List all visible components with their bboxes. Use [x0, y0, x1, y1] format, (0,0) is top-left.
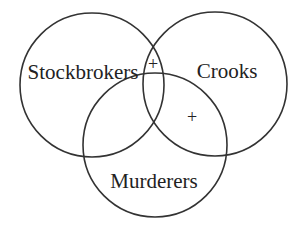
plus-marker-stockbrokers-crooks: +	[148, 54, 158, 74]
murderers-circle	[83, 73, 227, 217]
crooks-label: Crooks	[197, 59, 258, 83]
venn-diagram: Stockbrokers Crooks Murderers + +	[0, 0, 301, 225]
murderers-label: Murderers	[110, 169, 197, 193]
stockbrokers-label: Stockbrokers	[28, 60, 139, 84]
plus-marker-crooks-murderers: +	[187, 107, 197, 127]
